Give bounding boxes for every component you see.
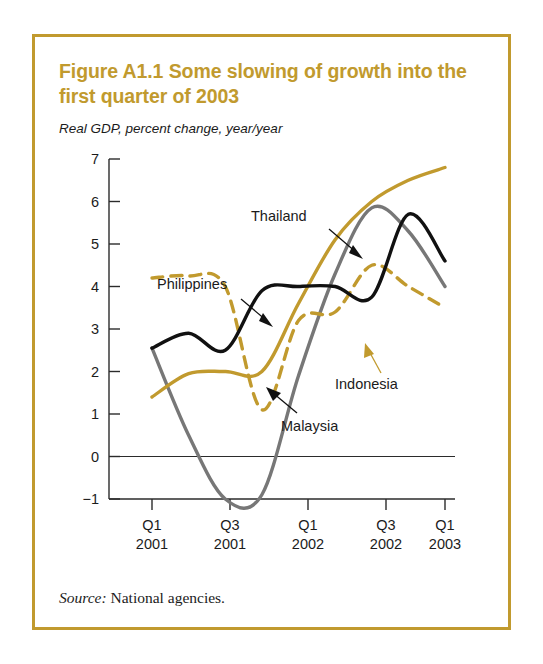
y-tick-label: 3 — [91, 321, 99, 337]
source-label: Source: — [59, 589, 107, 606]
x-tick-quarter: Q3 — [220, 517, 239, 533]
figure-subtitle: Real GDP, percent change, year/year — [59, 120, 488, 138]
annotation-malaysia: Malaysia — [266, 387, 339, 434]
y-tick-label: 4 — [91, 279, 99, 295]
figure-root: Figure A1.1 Some slowing of growth into … — [0, 0, 543, 664]
series-line-malaysia — [152, 206, 445, 508]
x-tick-quarter: Q1 — [435, 517, 454, 533]
x-tick-year: 2002 — [292, 536, 324, 552]
line-chart-svg: 7 6 5 4 3 2 1 0 −1 — [35, 141, 468, 561]
y-tick-label: −1 — [82, 491, 99, 507]
y-tick-marks — [109, 159, 120, 499]
x-tick-marks — [152, 499, 445, 510]
x-tick-year: 2001 — [136, 536, 168, 552]
y-tick-label: 5 — [91, 236, 99, 252]
y-tick-label: 6 — [91, 194, 99, 210]
y-tick-label: 0 — [91, 449, 99, 465]
figure-title: Figure A1.1 Some slowing of growth into … — [59, 59, 479, 109]
x-tick-year: 2001 — [214, 536, 246, 552]
source-text: National agencies. — [111, 589, 225, 606]
x-tick-quarter: Q1 — [142, 517, 161, 533]
source-note: Source: National agencies. — [59, 589, 225, 607]
x-tick-year: 2002 — [370, 536, 402, 552]
annotation-label-indonesia: Indonesia — [335, 376, 399, 392]
annotation-label-thailand: Thailand — [251, 208, 307, 224]
y-tick-labels: 7 6 5 4 3 2 1 0 −1 — [82, 151, 99, 507]
figure-frame: Figure A1.1 Some slowing of growth into … — [32, 34, 511, 630]
y-tick-label: 2 — [91, 364, 99, 380]
annotation-arrow-malaysia — [266, 387, 281, 401]
plot-area: 7 6 5 4 3 2 1 0 −1 — [35, 141, 508, 561]
annotation-indonesia: Indonesia — [335, 343, 399, 392]
annotation-arrow-philippines — [259, 313, 273, 327]
annotation-label-philippines: Philippines — [157, 276, 227, 292]
x-tick-quarter: Q3 — [376, 517, 395, 533]
annotation-arrow-indonesia — [364, 343, 374, 358]
x-tick-quarter: Q1 — [298, 517, 317, 533]
figure-inner: Figure A1.1 Some slowing of growth into … — [35, 37, 508, 627]
y-tick-label: 7 — [91, 151, 99, 167]
x-tick-labels: Q1 2001 Q3 2001 Q1 2002 Q3 2002 Q1 2003 — [136, 517, 461, 552]
x-tick-year: 2003 — [429, 536, 461, 552]
annotation-label-malaysia: Malaysia — [281, 418, 339, 434]
y-tick-label: 1 — [91, 406, 99, 422]
